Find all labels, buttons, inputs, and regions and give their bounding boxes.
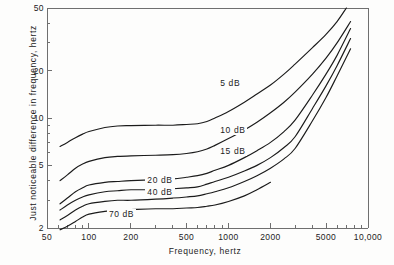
curve-40-db (60, 49, 351, 220)
curve-label-40-db: 40 dB (145, 187, 174, 197)
x-tick-label: 1000 (218, 232, 239, 242)
x-tick-label: 5000 (316, 232, 337, 242)
curve-label-5-db: 5 dB (218, 78, 242, 88)
y-tick-label: 2 (14, 223, 44, 233)
x-tick-label: 200 (123, 232, 138, 242)
y-tick-label: 50 (14, 3, 44, 13)
y-axis-title: Just noticeable difference in frequency,… (28, 23, 38, 223)
x-axis-title: Frequency, hertz (169, 246, 242, 256)
x-tick-label: 100 (81, 232, 96, 242)
x-tick-label: 50 (42, 232, 52, 242)
x-tick-label: 2000 (260, 232, 281, 242)
curve-label-15-db: 15 dB (218, 146, 247, 156)
figure-container: 251020505010020050010002000500010,000 5 … (0, 0, 394, 265)
curve-15-db (60, 29, 351, 204)
curve-20-db (60, 39, 351, 211)
curve-label-20-db: 20 dB (145, 175, 174, 185)
curve-10-db (60, 22, 351, 181)
curve-label-10-db: 10 dB (218, 125, 247, 135)
curve-5-db (60, 8, 346, 146)
curve-label-70-db: 70 dB (107, 209, 136, 219)
data-curves (60, 8, 351, 230)
x-tick-label: 10,000 (354, 232, 382, 242)
x-tick-label: 500 (179, 232, 194, 242)
chart-plot-area (0, 0, 394, 265)
